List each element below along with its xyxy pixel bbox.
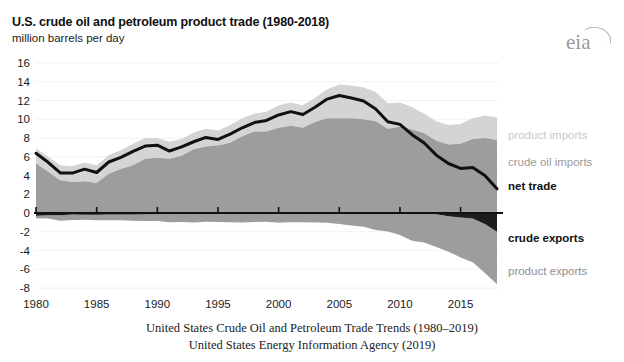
y-axis-tick-label: 4 [8, 170, 30, 182]
x-axis-tick-label: 2015 [441, 298, 481, 310]
y-axis-tick-label: 12 [8, 95, 30, 107]
x-axis-tick-label: 1980 [16, 298, 56, 310]
y-axis-tick-label: 16 [8, 57, 30, 69]
x-axis-tick-label: 1995 [198, 298, 238, 310]
caption-line-2: United States Energy Information Agency … [0, 337, 624, 353]
area-series-group [36, 85, 497, 285]
area-product-exports [36, 213, 497, 284]
caption-line-1: United States Crude Oil and Petroleum Tr… [0, 320, 624, 336]
y-axis-tick-label: 0 [8, 207, 30, 219]
y-axis-tick-label: -4 [8, 245, 30, 257]
legend-net-trade: net trade [508, 180, 557, 193]
legend-product-exports: product exports [508, 265, 587, 278]
y-axis-tick-label: 6 [8, 151, 30, 163]
legend-crude-exports: crude exports [508, 232, 584, 245]
x-axis-tick-label: 2010 [380, 298, 420, 310]
y-axis-tick-label: -2 [8, 226, 30, 238]
y-axis-tick-label: 8 [8, 132, 30, 144]
x-axis-tick-label: 1985 [77, 298, 117, 310]
x-axis-tick-label: 2000 [259, 298, 299, 310]
legend-product-imports: product imports [508, 129, 587, 142]
y-axis-tick-label: 2 [8, 188, 30, 200]
x-axis-tick-label: 1990 [137, 298, 177, 310]
y-axis-tick-label: 14 [8, 76, 30, 88]
y-axis-tick-label: -6 [8, 263, 30, 275]
y-axis-tick-label: 10 [8, 113, 30, 125]
legend-crude-oil-imports: crude oil imports [508, 156, 592, 169]
chart-figure: U.S. crude oil and petroleum product tra… [0, 0, 624, 362]
y-axis-tick-label: -8 [8, 282, 30, 294]
x-axis-tick-label: 2005 [319, 298, 359, 310]
